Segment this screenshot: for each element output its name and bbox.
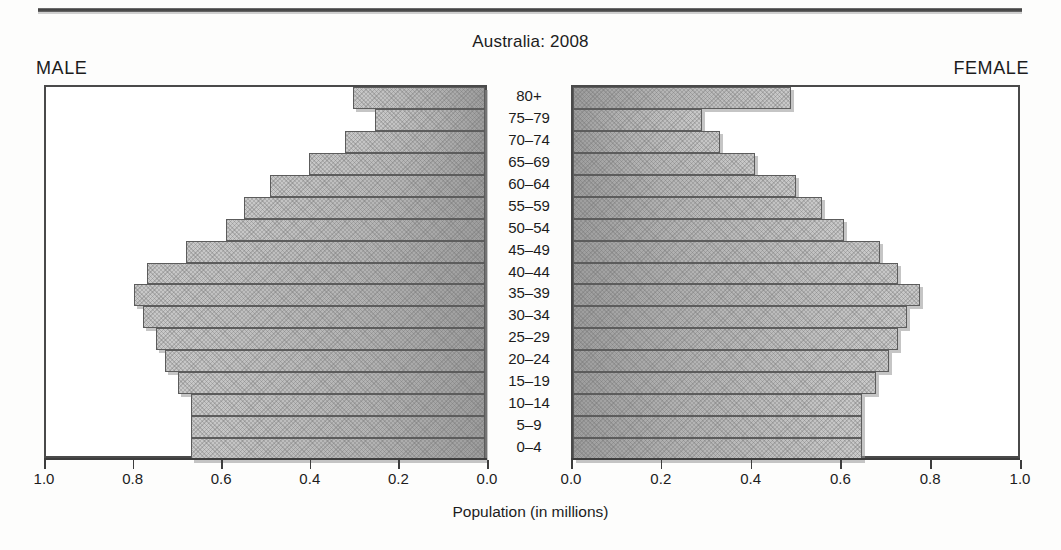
axis-tick-label: 0.6: [830, 470, 851, 487]
bar-row: [46, 372, 485, 394]
male-bar-50-54[interactable]: [226, 219, 485, 241]
bar-row: [573, 241, 1018, 263]
axis-tick: [44, 460, 46, 469]
age-group-axis: 80+75–7970–7465–6960–6455–5950–5445–4940…: [487, 85, 571, 458]
bar-row: [573, 306, 1018, 328]
population-pyramid-figure: Australia: 2008 MALE FEMALE 80+75–7970–7…: [0, 0, 1061, 550]
female-bar-10-14[interactable]: [573, 394, 862, 416]
axis-tick-label: 0.2: [388, 470, 409, 487]
axis-tick: [751, 460, 753, 469]
axis-tick: [221, 460, 223, 469]
female-bar-35-39[interactable]: [573, 284, 920, 306]
male-bar-35-39[interactable]: [134, 284, 485, 306]
axis-tick: [571, 460, 573, 469]
bar-row: [46, 438, 485, 460]
bar-row: [573, 153, 1018, 175]
male-bar-25-29[interactable]: [156, 328, 485, 350]
female-bar-5-9[interactable]: [573, 416, 862, 438]
male-bar-40-44[interactable]: [147, 263, 485, 285]
age-group-label: 60–64: [487, 173, 571, 195]
bar-row: [46, 241, 485, 263]
bar-row: [573, 109, 1018, 131]
male-plot-panel: [44, 85, 487, 458]
bar-row: [573, 219, 1018, 241]
female-bar-45-49[interactable]: [573, 241, 880, 263]
bar-row: [46, 131, 485, 153]
male-bar-75-79[interactable]: [375, 109, 485, 131]
female-bar-60-64[interactable]: [573, 175, 796, 197]
female-bar-80+[interactable]: [573, 87, 791, 109]
age-group-label: 50–54: [487, 217, 571, 239]
age-group-label: 10–14: [487, 392, 571, 414]
bar-row: [46, 328, 485, 350]
axis-tick: [487, 460, 489, 469]
male-bar-60-64[interactable]: [270, 175, 485, 197]
male-bar-30-34[interactable]: [143, 306, 485, 328]
bar-row: [46, 87, 485, 109]
male-bar-5-9[interactable]: [191, 416, 485, 438]
axis-tick: [840, 460, 842, 469]
age-group-label: 20–24: [487, 348, 571, 370]
male-bar-80+[interactable]: [353, 87, 485, 109]
bar-row: [573, 263, 1018, 285]
age-group-label: 55–59: [487, 195, 571, 217]
axis-tick-label: 0.8: [920, 470, 941, 487]
bar-row: [573, 87, 1018, 109]
female-bar-65-69[interactable]: [573, 153, 755, 175]
male-bar-10-14[interactable]: [191, 394, 485, 416]
male-bar-45-49[interactable]: [186, 241, 485, 263]
bar-row: [573, 350, 1018, 372]
bar-row: [46, 219, 485, 241]
female-bar-20-24[interactable]: [573, 350, 889, 372]
female-bar-15-19[interactable]: [573, 372, 876, 394]
male-bar-70-74[interactable]: [345, 131, 485, 153]
age-group-label: 15–19: [487, 370, 571, 392]
male-bar-20-24[interactable]: [165, 350, 485, 372]
age-group-label: 40–44: [487, 261, 571, 283]
female-bar-50-54[interactable]: [573, 219, 844, 241]
age-group-label: 80+: [487, 85, 571, 107]
age-group-label: 35–39: [487, 282, 571, 304]
bar-row: [573, 131, 1018, 153]
female-bar-group: [573, 87, 1018, 456]
axis-tick: [930, 460, 932, 469]
page-divider-rule: [38, 8, 1022, 12]
age-group-label: 5–9: [487, 414, 571, 436]
female-bar-30-34[interactable]: [573, 306, 907, 328]
axis-tick-label: 0.2: [650, 470, 671, 487]
bar-row: [46, 416, 485, 438]
chart-title: Australia: 2008: [0, 32, 1061, 52]
female-axis-line: [571, 458, 1020, 460]
bar-row: [573, 175, 1018, 197]
female-bar-25-29[interactable]: [573, 328, 898, 350]
male-bar-65-69[interactable]: [309, 153, 485, 175]
female-plot-panel: [571, 85, 1020, 458]
female-bar-40-44[interactable]: [573, 263, 898, 285]
bar-row: [46, 284, 485, 306]
bar-row: [46, 175, 485, 197]
bar-row: [46, 263, 485, 285]
female-x-axis: 0.00.20.40.60.81.0: [571, 458, 1020, 492]
male-bar-55-59[interactable]: [244, 197, 485, 219]
female-bar-0-4[interactable]: [573, 438, 862, 460]
male-axis-line: [44, 458, 487, 460]
female-bar-75-79[interactable]: [573, 109, 702, 131]
axis-tick: [310, 460, 312, 469]
age-group-label: 70–74: [487, 129, 571, 151]
male-bar-0-4[interactable]: [191, 438, 485, 460]
bar-row: [573, 416, 1018, 438]
bar-row: [573, 372, 1018, 394]
axis-tick-label: 0.6: [211, 470, 232, 487]
age-group-label: 0–4: [487, 436, 571, 458]
male-bar-group: [46, 87, 485, 456]
bar-row: [46, 153, 485, 175]
axis-tick-label: 0.4: [299, 470, 320, 487]
female-bar-70-74[interactable]: [573, 131, 720, 153]
axis-tick-label: 0.0: [561, 470, 582, 487]
bar-row: [573, 438, 1018, 460]
axis-tick-label: 0.8: [122, 470, 143, 487]
axis-tick: [398, 460, 400, 469]
female-bar-55-59[interactable]: [573, 197, 822, 219]
female-panel-label: FEMALE: [953, 58, 1029, 79]
male-bar-15-19[interactable]: [178, 372, 485, 394]
